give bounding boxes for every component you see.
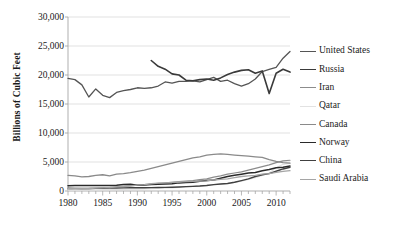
chart-figure: Billions of Cubic Feet 30,00025,00020,00…: [0, 0, 400, 226]
legend-swatch-icon: [300, 69, 316, 70]
legend-item-label: Qatar: [319, 101, 340, 111]
series-line-canada: [68, 154, 290, 177]
x-tick-label: 2000: [197, 198, 216, 208]
x-axis-tick-labels: 1980198519901995200020052010: [0, 198, 400, 218]
series-line-russia: [151, 61, 290, 94]
legend-swatch-icon: [300, 124, 316, 125]
legend-item-label: United States: [319, 46, 370, 56]
legend-item-united-states[interactable]: United States: [300, 42, 400, 60]
legend-item-saudi-arabia[interactable]: Saudi Arabia: [300, 170, 400, 188]
legend-item-norway[interactable]: Norway: [300, 133, 400, 151]
legend-item-china[interactable]: China: [300, 152, 400, 170]
legend-swatch-icon: [300, 142, 316, 143]
x-tick-label: 1985: [93, 198, 112, 208]
legend-item-qatar[interactable]: Qatar: [300, 97, 400, 115]
x-tick-label: 1980: [59, 198, 78, 208]
legend-item-label: Canada: [319, 120, 348, 130]
legend-item-label: Iran: [319, 83, 334, 93]
legend-item-label: Russia: [319, 65, 344, 75]
x-tick-label: 1995: [163, 198, 182, 208]
x-tick-label: 2005: [232, 198, 251, 208]
legend-swatch-icon: [300, 106, 316, 107]
chart-legend: United StatesRussiaIranQatarCanadaNorway…: [300, 42, 400, 188]
legend-item-iran[interactable]: Iran: [300, 79, 400, 97]
legend-item-label: Norway: [319, 138, 350, 148]
legend-swatch-icon: [300, 51, 316, 52]
x-tick-label: 2010: [267, 198, 286, 208]
legend-item-label: China: [319, 156, 342, 166]
legend-swatch-icon: [300, 179, 316, 180]
legend-swatch-icon: [300, 160, 316, 161]
legend-swatch-icon: [300, 87, 316, 88]
legend-item-label: Saudi Arabia: [319, 174, 368, 184]
x-tick-label: 1990: [128, 198, 147, 208]
legend-item-canada[interactable]: Canada: [300, 115, 400, 133]
legend-item-russia[interactable]: Russia: [300, 60, 400, 78]
